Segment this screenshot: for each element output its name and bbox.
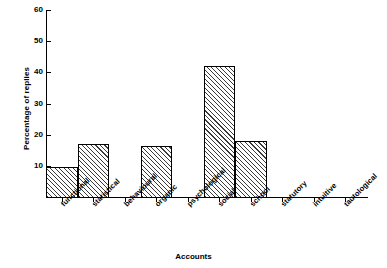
y-tick-label: 10 xyxy=(19,162,43,170)
y-tick-label: 20 xyxy=(19,131,43,139)
x-tick-label-intuitive: intuitive xyxy=(311,181,338,208)
y-tick-mark xyxy=(46,104,51,105)
x-tick-label-statutory: statutory xyxy=(279,179,309,209)
y-tick-label: 50 xyxy=(19,37,43,45)
x-tick-label-tautological: tautological xyxy=(342,171,379,208)
y-tick-mark xyxy=(46,10,51,11)
bar-chart: Percentage of replies 102030405060 funct… xyxy=(0,0,387,268)
y-tick-mark xyxy=(46,41,51,42)
y-tick-label: 60 xyxy=(19,6,43,14)
y-tick-label: 30 xyxy=(19,100,43,108)
x-axis-title: Accounts xyxy=(0,252,387,261)
y-tick-mark xyxy=(46,72,51,73)
y-tick-label: 40 xyxy=(19,68,43,76)
y-tick-mark xyxy=(46,135,51,136)
